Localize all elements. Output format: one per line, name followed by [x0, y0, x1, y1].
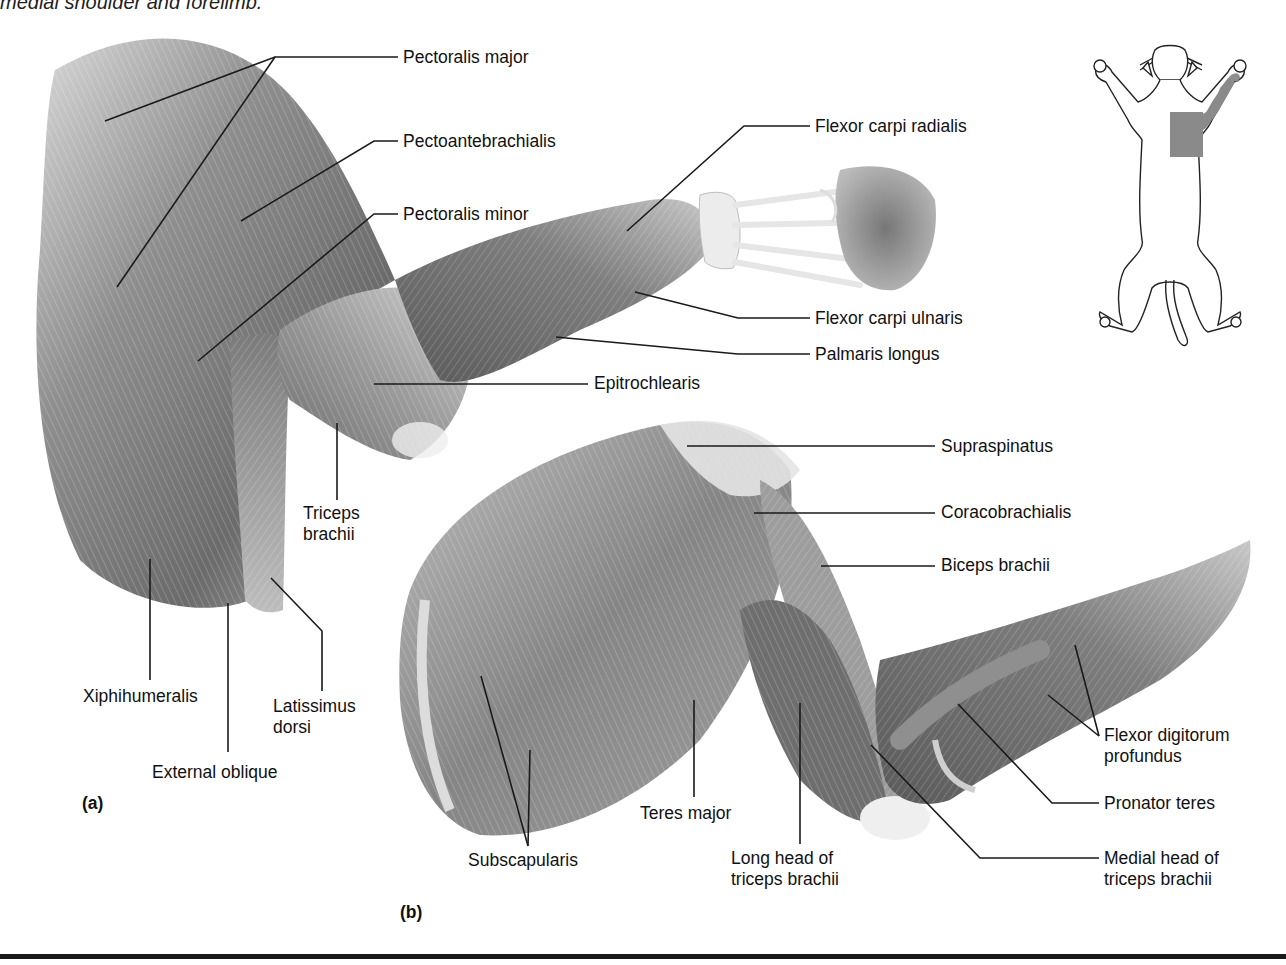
panel-b-illustration [399, 421, 1250, 840]
label-teres-major: Teres major [640, 803, 731, 824]
label-medial-head-triceps: Medial head of triceps brachii [1104, 848, 1219, 890]
bottom-rule-divider [0, 954, 1286, 959]
label-epitrochlearis: Epitrochlearis [594, 373, 700, 394]
label-coracobrachialis: Coracobrachialis [941, 502, 1071, 523]
label-flexor-digitorum-profundus: Flexor digitorum profundus [1104, 725, 1229, 767]
label-line: Medial head of [1104, 848, 1219, 869]
label-line: triceps brachii [731, 869, 839, 890]
label-palmaris-longus: Palmaris longus [815, 344, 940, 365]
label-long-head-triceps: Long head of triceps brachii [731, 848, 839, 890]
label-external-oblique: External oblique [152, 762, 278, 783]
label-line: Latissimus [273, 696, 356, 717]
label-pectoantebrachialis: Pectoantebrachialis [403, 131, 556, 152]
panel-letter-a: (a) [82, 793, 103, 814]
label-flexor-carpi-radialis: Flexor carpi radialis [815, 116, 967, 137]
label-line: profundus [1104, 746, 1229, 767]
label-xiphihumeralis: Xiphihumeralis [83, 686, 198, 707]
label-supraspinatus: Supraspinatus [941, 436, 1053, 457]
panel-letter-b: (b) [400, 902, 422, 923]
label-biceps-brachii: Biceps brachii [941, 555, 1050, 576]
leader-line-palmaris-longus [556, 337, 810, 354]
anatomy-figure: medial shoulder and forelimb. [0, 0, 1286, 965]
label-pectoralis-major: Pectoralis major [403, 47, 528, 68]
label-triceps-brachii: Triceps brachii [303, 503, 360, 545]
label-pronator-teres: Pronator teres [1104, 793, 1215, 814]
label-latissimus-dorsi: Latissimus dorsi [273, 696, 356, 738]
orientation-inset-cat [1094, 46, 1246, 346]
label-line: dorsi [273, 717, 356, 738]
label-line: brachii [303, 524, 360, 545]
leader-line-flexor-carpi-ulnaris [635, 292, 810, 318]
label-pectoralis-minor: Pectoralis minor [403, 204, 528, 225]
label-line: Triceps [303, 503, 360, 524]
label-flexor-carpi-ulnaris: Flexor carpi ulnaris [815, 308, 963, 329]
label-line: Flexor digitorum [1104, 725, 1229, 746]
label-line: triceps brachii [1104, 869, 1219, 890]
label-line: Long head of [731, 848, 839, 869]
label-subscapularis: Subscapularis [468, 850, 578, 871]
